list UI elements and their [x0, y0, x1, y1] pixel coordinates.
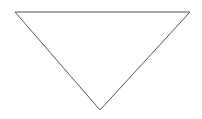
down-triangle-icon [15, 12, 190, 110]
drawing-canvas [0, 0, 202, 119]
